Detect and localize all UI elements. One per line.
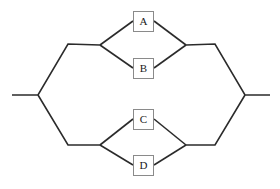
edge-a-to-merge bbox=[154, 21, 186, 45]
node-label-a: A bbox=[140, 16, 148, 27]
edge-c-to-merge bbox=[154, 119, 186, 145]
diagram-canvas: A B C D bbox=[0, 0, 280, 189]
outline-upper-right-arm bbox=[186, 44, 270, 95]
node-box-c[interactable]: C bbox=[133, 109, 154, 130]
outline-lower-left-arm bbox=[38, 95, 100, 145]
edge-split-to-a bbox=[100, 21, 133, 45]
edge-d-to-merge bbox=[154, 145, 186, 165]
edge-split-to-c bbox=[100, 119, 133, 145]
node-label-c: C bbox=[140, 114, 147, 125]
left-terminal-stub bbox=[12, 44, 100, 95]
node-label-b: B bbox=[140, 63, 147, 74]
edge-split-to-d bbox=[100, 145, 133, 165]
node-label-d: D bbox=[140, 160, 148, 171]
node-box-a[interactable]: A bbox=[133, 11, 154, 32]
edge-b-to-merge bbox=[154, 45, 186, 68]
node-box-b[interactable]: B bbox=[133, 58, 154, 79]
node-box-d[interactable]: D bbox=[133, 155, 154, 176]
edge-split-to-b bbox=[100, 45, 133, 68]
outline-lower-right-arm bbox=[186, 95, 245, 145]
